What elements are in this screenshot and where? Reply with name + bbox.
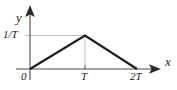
x-tick-label-t: T [81,71,87,82]
triangular-pulse-curve [30,36,137,70]
x-tick-label-2t: 2T [130,71,142,82]
y-axis-label: y [16,11,22,24]
x-tick-label-origin: 0 [21,71,27,82]
y-tick-label-1-over-t: 1/T [3,29,18,40]
figure-canvas: y x 1/T 0 T 2T [0,0,177,90]
x-axis-label: x [165,55,171,68]
